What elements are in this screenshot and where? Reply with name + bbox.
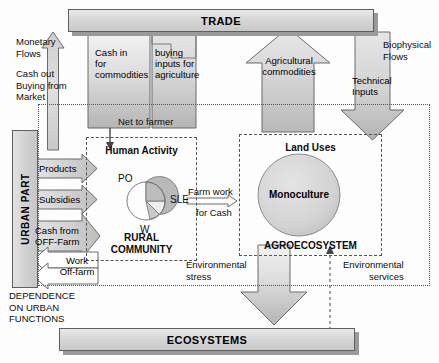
pie-label-sle: SLE: [170, 194, 189, 206]
urban-part-bar: URBAN PART: [12, 130, 38, 288]
agroecosystem-label: AGROECOSYSTEM: [239, 240, 382, 252]
products-label: Products: [39, 163, 77, 174]
diagram-canvas: TRADE ECOSYSTEMS URBAN PART Monetary Flo…: [0, 0, 439, 363]
pie-label-w: W: [140, 224, 149, 236]
cash-from-off-farm-label: Cash from OFF-Farm: [35, 225, 79, 247]
cash-in-label: Cash in for commodities: [95, 47, 148, 80]
pie-label-po: PO: [118, 173, 132, 185]
technical-inputs-label: Technical Inputs: [352, 75, 392, 97]
land-uses-title: Land Uses: [239, 142, 382, 154]
monetary-flows-label: Monetary Flows: [16, 36, 56, 59]
net-to-farmer-label: Net to farmer: [118, 116, 173, 128]
ecosystems-bar: ECOSYSTEMS: [59, 328, 355, 351]
agricultural-commodities-label: Agricultural commodities: [243, 55, 335, 77]
farm-work-label-line1: Farm work: [188, 186, 233, 198]
trade-bar: TRADE: [68, 9, 374, 32]
urban-part-label: URBAN PART: [20, 173, 31, 244]
subsidies-label: Subsidies: [39, 194, 80, 205]
farm-work-label-line2: for Cash: [196, 207, 232, 219]
environmental-services-label: Environmental services: [343, 259, 404, 282]
monoculture-label: Monoculture: [259, 189, 339, 200]
environmental-stress-label: Environmental stress: [186, 259, 247, 282]
biophysical-flows-label: Biophysical Flows: [383, 39, 431, 62]
rural-community-label: RURAL COMMUNITY: [86, 232, 197, 256]
buying-inputs-label: buying inputs for agriculture: [155, 47, 199, 80]
work-off-farm-label: Work Off-farm: [46, 255, 108, 277]
human-activity-title: Human Activity: [86, 145, 197, 157]
dependence-on-urban-functions-label: DEPENDENCE ON URBAN FUNCTIONS: [9, 290, 75, 325]
cash-out-label: Cash out Buying from Market: [16, 68, 67, 103]
